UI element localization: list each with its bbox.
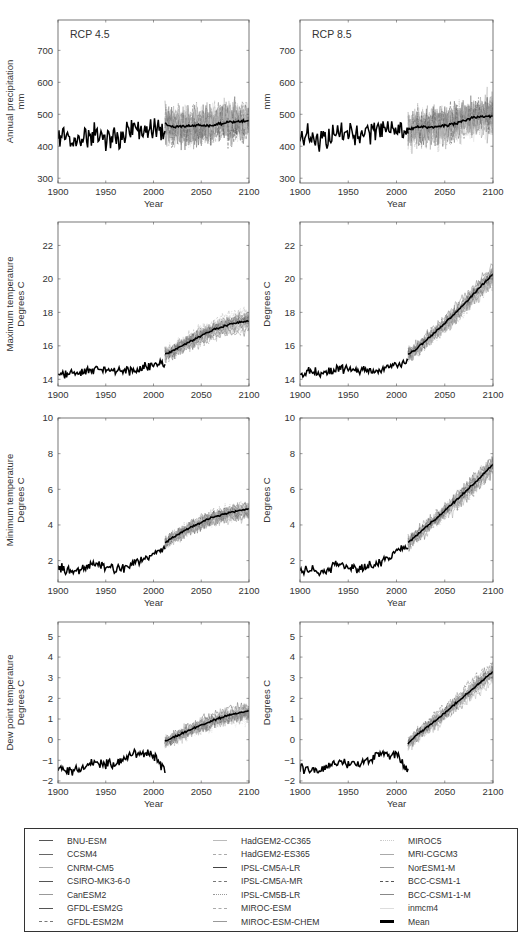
legend-item: CanESM2 — [39, 888, 130, 902]
x-axis-label: Year — [387, 198, 406, 209]
legend-label: BCC-CSM1-1-M — [408, 890, 471, 900]
y-tick-label: 500 — [279, 109, 295, 120]
y-tick-label: 10 — [42, 412, 53, 423]
y-tick-label: 3 — [290, 672, 295, 683]
y-tick-label: 5 — [48, 631, 53, 642]
observed-series — [300, 121, 408, 151]
legend-item: BCC-CSM1-1 — [380, 875, 471, 889]
observed-series — [58, 547, 165, 575]
x-tick-label: 2000 — [143, 186, 164, 197]
y-tick-label: 1 — [48, 713, 53, 724]
legend-column-2: HadGEM2-CC365HadGEM2-ES365IPSL-CM5A-LRIP… — [213, 834, 319, 929]
x-tick-label: 2050 — [191, 186, 212, 197]
y-tick-label: 5 — [290, 631, 295, 642]
x-tick-label: 2000 — [386, 389, 407, 400]
observed-series — [58, 360, 165, 378]
x-tick-label: 1950 — [95, 786, 116, 797]
legend-item: GFDL-ESM2G — [39, 902, 130, 916]
legend-label: Mean — [408, 917, 430, 927]
legend-item: Mean — [380, 915, 471, 929]
y-tick-label: 14 — [284, 374, 295, 385]
line-swatch-icon — [213, 840, 227, 841]
legend-label: GFDL-ESM2G — [67, 903, 123, 913]
x-tick-label: 1950 — [338, 786, 359, 797]
y-tick-label: 6 — [48, 484, 53, 495]
y-tick-label: 400 — [279, 141, 295, 152]
legend-item: IPSL-CM5A-MR — [213, 875, 319, 889]
x-tick-label: 1950 — [338, 186, 359, 197]
x-axis-label: Year — [144, 597, 163, 608]
y-axis-label: Annual precipitation — [4, 60, 15, 143]
legend-column-1: BNU-ESMCCSM4CNRM-CM5CSIRO-MK3-6-0CanESM2… — [39, 834, 130, 929]
legend-label: MIROC-ESM — [241, 903, 291, 913]
line-swatch-icon — [213, 867, 227, 868]
x-tick-label: 1900 — [289, 786, 310, 797]
panel-tmax-rcp45: 190019502000205021001416182022Maximum te… — [4, 222, 260, 400]
legend-item: CNRM-CM5 — [39, 861, 130, 875]
legend-label: BCC-CSM1-1 — [408, 876, 461, 886]
y-tick-label: 6 — [290, 484, 295, 495]
x-tick-label: 2100 — [238, 786, 259, 797]
plot-area — [300, 456, 493, 575]
panel-tmax-rcp85: 190019502000205021001416182022Degrees C — [261, 222, 504, 400]
legend-label: NorESM1-M — [408, 863, 455, 873]
line-swatch-icon — [380, 867, 394, 868]
line-swatch-icon — [380, 840, 394, 841]
x-axis-label: Year — [387, 798, 406, 809]
legend-label: HadGEM2-ES365 — [241, 849, 310, 859]
x-axis-label: Year — [144, 198, 163, 209]
climate-projection-figure: 19001950200020502100300400500600700YearA… — [0, 0, 524, 820]
y-tick-label: −1 — [42, 755, 53, 766]
legend-label: IPSL-CM5A-MR — [241, 876, 303, 886]
line-swatch-icon — [213, 881, 227, 882]
legend-item: HadGEM2-ES365 — [213, 848, 319, 862]
y-tick-label: 400 — [37, 141, 53, 152]
y-tick-label: 700 — [279, 45, 295, 56]
x-tick-label: 1950 — [338, 389, 359, 400]
y-tick-label: 4 — [290, 519, 295, 530]
line-swatch-icon — [213, 854, 227, 855]
legend-item: IPSL-CM5A-LR — [213, 861, 319, 875]
x-tick-label: 2050 — [434, 585, 455, 596]
y-tick-label: 16 — [42, 340, 53, 351]
x-tick-label: 1950 — [338, 585, 359, 596]
line-swatch-icon — [213, 908, 227, 909]
y-axis-label: Degrees C — [261, 281, 272, 327]
y-tick-label: 8 — [290, 448, 295, 459]
y-tick-label: 0 — [290, 734, 295, 745]
y-tick-label: 0 — [48, 734, 53, 745]
model-legend: BNU-ESMCCSM4CNRM-CM5CSIRO-MK3-6-0CanESM2… — [24, 828, 518, 932]
x-tick-label: 2000 — [143, 389, 164, 400]
legend-label: BNU-ESM — [67, 836, 107, 846]
y-tick-label: 20 — [42, 273, 53, 284]
x-tick-label: 1900 — [289, 186, 310, 197]
legend-label: CNRM-CM5 — [67, 863, 114, 873]
legend-label: IPSL-CM5A-LR — [241, 863, 300, 873]
plot-area — [300, 662, 493, 774]
legend-label: CCSM4 — [67, 849, 97, 859]
y-tick-label: 14 — [42, 374, 53, 385]
plot-frame — [58, 20, 249, 183]
model-series — [408, 264, 493, 351]
plot-frame — [300, 20, 493, 183]
legend-item: CSIRO-MK3-6-0 — [39, 875, 130, 889]
plot-frame — [58, 222, 249, 386]
line-swatch-icon — [39, 854, 53, 855]
x-tick-label: 2050 — [191, 786, 212, 797]
line-swatch-icon — [39, 867, 53, 868]
x-tick-label: 1950 — [95, 389, 116, 400]
x-tick-label: 2050 — [434, 389, 455, 400]
x-tick-label: 2100 — [482, 389, 503, 400]
line-swatch-icon — [39, 894, 53, 895]
y-axis-label: Degrees C — [261, 680, 272, 726]
y-tick-label: 16 — [284, 340, 295, 351]
x-tick-label: 1900 — [47, 389, 68, 400]
observed-series — [300, 545, 408, 575]
y-axis-label: Maximum temperature — [4, 256, 15, 351]
line-swatch-icon — [380, 881, 394, 882]
legend-label: MIROC5 — [408, 836, 441, 846]
legend-item: MRI-CGCM3 — [380, 848, 471, 862]
legend-column-3: MIROC5MRI-CGCM3NorESM1-MBCC-CSM1-1BCC-CS… — [380, 834, 471, 929]
plot-area — [58, 501, 249, 574]
line-swatch-icon — [380, 908, 394, 909]
